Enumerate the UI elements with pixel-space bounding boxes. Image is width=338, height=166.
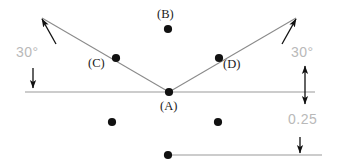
technical-drawing-figure: (A) (B) (C) (D) 30° 30° 0.25 [0, 0, 338, 166]
point-dot-C [112, 54, 120, 62]
point-label-B: (B) [157, 8, 174, 21]
angle-arrow-left [42, 19, 56, 44]
extra-dot-right [214, 118, 222, 126]
angle-arrow-right [282, 19, 296, 44]
point-dot-B [164, 25, 172, 33]
ray-right [169, 18, 296, 92]
point-dot-D [215, 54, 223, 62]
extra-dot-bottom [164, 151, 172, 159]
point-dot-A [165, 88, 173, 96]
angle-label-left: 30° [16, 45, 39, 59]
point-label-A: (A) [160, 100, 177, 113]
point-label-C: (C) [88, 57, 105, 70]
ray-left [42, 18, 169, 92]
offset-dimension-label: 0.25 [288, 112, 317, 126]
point-label-D: (D) [223, 58, 240, 71]
angle-label-right: 30° [291, 45, 314, 59]
extra-dot-left [108, 118, 116, 126]
figure-canvas [0, 0, 338, 166]
